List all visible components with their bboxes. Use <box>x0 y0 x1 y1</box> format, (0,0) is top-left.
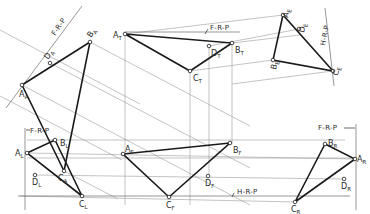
label-a-l: AL <box>15 149 24 159</box>
label-c-l: CL <box>79 200 89 210</box>
frp-right-label: F-R-P <box>318 124 337 132</box>
point-labels: AA BA CA DA AT BT CT DT AE DE BE CE AL B… <box>15 7 366 214</box>
label-d-e: DE <box>297 22 309 34</box>
label-d-l: DL <box>32 178 42 188</box>
label-c-e: CE <box>331 65 343 76</box>
label-a-r: AR <box>357 155 366 165</box>
label-a-f: AF <box>125 145 134 155</box>
label-b-t: BT <box>235 46 245 56</box>
label-b-f: BF <box>233 146 242 156</box>
frp-left-label: F-R-P <box>30 127 49 135</box>
label-c-t: CT <box>193 74 203 84</box>
label-d-f: DF <box>205 179 214 189</box>
triangle-auxiliary-a <box>22 42 90 171</box>
label-a-a: AA <box>19 90 28 100</box>
label-d-r: DR <box>341 182 351 192</box>
triangle-left <box>27 140 82 196</box>
label-a-t: AT <box>113 31 122 41</box>
triangle-right <box>295 144 355 202</box>
frp-aux-a-label: F-R-P <box>50 17 68 37</box>
label-b-a: BA <box>85 26 99 40</box>
projection-lines <box>0 15 355 205</box>
hrp-front-label: H-R-P <box>237 188 258 196</box>
label-a-e: AE <box>281 7 293 18</box>
label-b-l: BL <box>60 139 70 149</box>
drawing-canvas: F-R-P F-R-P H-R-P F-R-P H-R-P F-R-P AA B… <box>0 0 370 214</box>
label-b-r: BR <box>328 139 338 149</box>
label-c-r: CR <box>291 205 301 214</box>
frp-top-label: F-R-P <box>210 24 229 32</box>
frp-top-arrow-icon <box>205 29 208 34</box>
reference-plane-labels: F-R-P F-R-P H-R-P F-R-P H-R-P F-R-P <box>26 17 355 197</box>
label-c-f: CF <box>166 201 175 211</box>
hrp-aux-e-label: H-R-P <box>319 25 331 47</box>
